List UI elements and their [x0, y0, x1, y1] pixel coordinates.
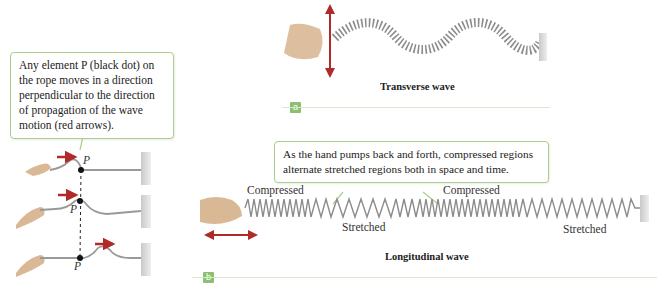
callout-text: As the hand pumps back and forth, compre…: [283, 148, 533, 175]
compression-callout: As the hand pumps back and forth, compre…: [274, 141, 549, 183]
transverse-spring: [284, 6, 547, 76]
point-label-2: P: [70, 203, 77, 215]
perpendicular-motion-callout: Any element P (black dot) on the rope mo…: [10, 52, 174, 139]
rope-frame-3: [16, 243, 151, 277]
point-label-3: P: [74, 260, 81, 272]
longitudinal-wave-caption: Longitudinal wave: [385, 251, 469, 262]
rope-frame-2: [16, 195, 151, 229]
stretched-label-2: Stretched: [563, 223, 606, 235]
panel-b-divider: [192, 277, 657, 278]
point-label-1: P: [83, 154, 90, 166]
transverse-wave-caption: Transverse wave: [380, 81, 455, 92]
dashed-guide-line: [80, 170, 81, 258]
stretched-label-1: Stretched: [342, 221, 385, 233]
panel-a-divider: [282, 107, 550, 108]
compressed-label-1: Compressed: [247, 184, 304, 196]
compressed-label-2: Compressed: [443, 184, 500, 196]
callout-text: Any element P (black dot) on the rope mo…: [19, 59, 155, 131]
